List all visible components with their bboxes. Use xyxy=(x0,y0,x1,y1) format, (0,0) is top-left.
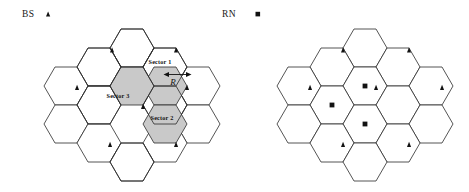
relay-node-cluster xyxy=(277,29,453,181)
sectored-cell-cluster: Sector 1 Sector 2 Sector 3 R xyxy=(44,29,220,181)
figure-container: BS RN xyxy=(0,0,469,192)
square-icon xyxy=(363,122,368,127)
legend-entry-rn: RN xyxy=(222,9,260,19)
triangle-icon xyxy=(46,12,50,17)
legend: BS RN xyxy=(22,9,260,19)
square-icon xyxy=(330,103,335,108)
sector-label-3: Sector 3 xyxy=(107,92,130,99)
sector-label-2: Sector 2 xyxy=(151,114,174,121)
square-icon xyxy=(363,84,368,89)
hexagonal-cell-layout-figure: BS RN xyxy=(0,0,469,192)
legend-label-bs: BS xyxy=(22,9,34,19)
cluster-right-cells xyxy=(277,29,453,181)
sector-label-1: Sector 1 xyxy=(149,58,172,65)
radius-label: R xyxy=(169,77,176,87)
legend-entry-bs: BS xyxy=(22,9,50,19)
legend-label-rn: RN xyxy=(222,9,236,19)
square-icon xyxy=(256,12,261,17)
